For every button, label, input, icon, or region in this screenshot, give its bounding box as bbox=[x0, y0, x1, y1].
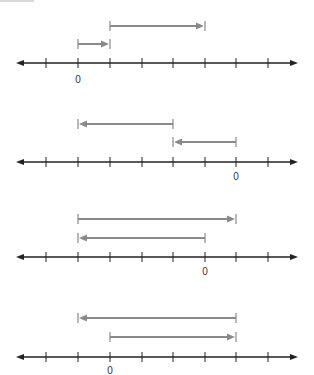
zero-label: 0 bbox=[75, 75, 81, 85]
number-lines-canvas bbox=[0, 0, 314, 375]
zero-label: 0 bbox=[233, 172, 239, 182]
zero-label: 0 bbox=[202, 267, 208, 277]
axis-right-arrow-icon bbox=[290, 60, 298, 66]
axis-left-arrow-icon bbox=[16, 354, 24, 360]
arrow-right-icon bbox=[227, 216, 235, 223]
axis-left-arrow-icon bbox=[16, 159, 24, 165]
number-line-figure: 0000 bbox=[0, 0, 314, 375]
arrow-left-icon bbox=[79, 235, 87, 242]
arrow-right-icon bbox=[196, 23, 204, 30]
axis-left-arrow-icon bbox=[16, 60, 24, 66]
axis-left-arrow-icon bbox=[16, 254, 24, 260]
axis-right-arrow-icon bbox=[290, 254, 298, 260]
arrow-right-icon bbox=[101, 41, 109, 48]
zero-label: 0 bbox=[107, 366, 113, 375]
arrow-left-icon bbox=[79, 315, 87, 322]
axis-right-arrow-icon bbox=[290, 354, 298, 360]
arrow-right-icon bbox=[227, 334, 235, 341]
arrow-left-icon bbox=[174, 139, 182, 146]
arrow-left-icon bbox=[79, 121, 87, 128]
axis-right-arrow-icon bbox=[290, 159, 298, 165]
